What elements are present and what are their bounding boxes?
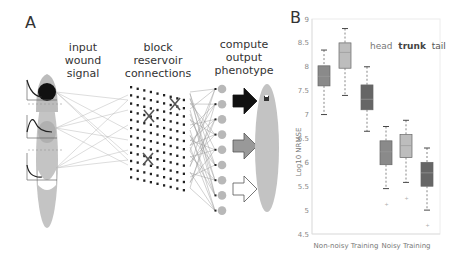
y-tick-label: 8.5	[298, 39, 309, 47]
reservoir-node	[150, 181, 152, 183]
reservoir-node	[143, 179, 145, 181]
y-tick-label: 6	[305, 159, 310, 167]
svg-text:+: +	[426, 222, 430, 228]
output-node	[218, 176, 227, 185]
reservoir-node	[176, 114, 178, 116]
arrow-head-icon	[233, 88, 257, 114]
cross-icon	[143, 153, 153, 165]
reservoir-node	[150, 107, 152, 109]
svg-text:wound: wound	[65, 54, 102, 67]
reservoir-node	[183, 115, 185, 117]
box-trunk: +	[400, 120, 412, 201]
reservoir-node	[183, 123, 185, 125]
arrow-tail-icon	[233, 176, 257, 202]
reservoir-node	[130, 160, 132, 162]
reservoir-node	[150, 173, 152, 175]
panel-b-label: B	[290, 8, 301, 27]
reservoir-node	[170, 128, 172, 130]
box-head	[318, 50, 330, 115]
reservoir-node	[163, 110, 165, 112]
reservoir-node	[163, 160, 165, 162]
reservoir-node	[156, 101, 158, 103]
reservoir-node	[170, 178, 172, 180]
legend-trunk: trunk	[398, 41, 427, 51]
arrow-trunk-icon	[233, 133, 257, 159]
reservoir-node	[176, 146, 178, 148]
y-tick-label: 7.5	[298, 87, 309, 95]
svg-text:phenotype: phenotype	[215, 64, 274, 77]
reservoir-node	[156, 142, 158, 144]
reservoir-node	[170, 153, 172, 155]
reservoir-node	[183, 132, 185, 134]
reservoir-node	[163, 184, 165, 186]
reservoir-node	[170, 145, 172, 147]
panel-a: A input wound signal block reservoir con…	[25, 13, 279, 228]
input-connections	[56, 92, 128, 168]
box-tail: +	[421, 148, 433, 228]
reservoir-node	[143, 97, 145, 99]
reservoir-node	[156, 174, 158, 176]
reservoir-node	[170, 169, 172, 171]
reservoir-node	[143, 106, 145, 108]
reservoir-node	[163, 176, 165, 178]
x-label-noisy: Noisy Training	[381, 242, 430, 250]
svg-text:+: +	[405, 195, 409, 201]
output-node	[218, 146, 227, 155]
reservoir-node	[170, 137, 172, 139]
reservoir-node	[176, 155, 178, 157]
y-tick-label: 4.5	[298, 231, 309, 239]
output-node	[218, 161, 227, 170]
plot-frame	[312, 19, 440, 234]
reservoir-node	[176, 163, 178, 165]
box-plots: +++	[318, 29, 433, 229]
y-tick-label: 9	[305, 16, 309, 24]
reservoir-node	[143, 122, 145, 124]
phenotype-arrows	[233, 88, 257, 202]
reservoir-node	[143, 89, 145, 91]
reservoir-node	[156, 183, 158, 185]
reservoir-node	[183, 99, 185, 101]
reservoir-node	[137, 145, 139, 147]
reservoir-node	[183, 107, 185, 109]
reservoir-node	[150, 91, 152, 93]
reservoir-node	[137, 153, 139, 155]
head-wound-icon	[38, 83, 56, 101]
box-trunk	[339, 29, 351, 96]
reservoir-node	[176, 138, 178, 140]
reservoir-node	[137, 161, 139, 163]
output-worm	[255, 84, 279, 212]
reservoir-node	[183, 189, 185, 191]
box-tail	[361, 67, 373, 131]
reservoir-node	[137, 112, 139, 114]
reservoir-node	[150, 165, 152, 167]
cross-icon	[144, 110, 154, 122]
reservoir-node	[176, 187, 178, 189]
reservoir-node	[130, 94, 132, 96]
reservoir-node	[163, 151, 165, 153]
reservoir-node	[170, 112, 172, 114]
output-connections	[190, 89, 215, 211]
reservoir-node	[130, 86, 132, 88]
reservoir-node	[183, 164, 185, 166]
reservoir-node	[143, 138, 145, 140]
output-node	[218, 115, 227, 124]
reservoir-node	[143, 130, 145, 132]
box-head: +	[380, 127, 392, 208]
reservoir-node	[130, 143, 132, 145]
output-node	[218, 100, 227, 109]
reservoir-node	[137, 88, 139, 90]
reservoir-node	[130, 119, 132, 121]
reservoir-node	[137, 137, 139, 139]
y-axis-ticks: 98.587.576.565.554.5	[298, 16, 310, 239]
svg-text:signal: signal	[67, 67, 100, 80]
reservoir-node	[137, 104, 139, 106]
reservoir-node	[156, 150, 158, 152]
output-node	[218, 206, 227, 215]
reservoir-node	[156, 158, 158, 160]
x-label-non-noisy: Non-noisy Training	[314, 242, 379, 250]
output-node	[218, 130, 227, 139]
svg-text:input: input	[69, 41, 98, 54]
reservoir-node	[130, 168, 132, 170]
reservoir-node	[183, 181, 185, 183]
reservoir-node	[143, 114, 145, 116]
